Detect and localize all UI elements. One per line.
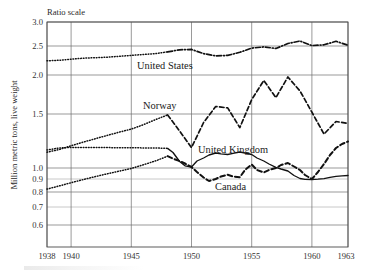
series-united-states: [47, 41, 348, 61]
ytick-1.5: 1.5: [32, 109, 43, 119]
ytick-2.0: 2.0: [32, 70, 43, 80]
x-axis-tick-labels: 1938 1940 1945 1950 1955 1960 1963: [38, 251, 354, 261]
series-label-norway: Norway: [143, 100, 177, 111]
series-canada-early-segment: [47, 156, 168, 189]
series-united-states-late-segment: [168, 41, 348, 56]
ytick-1.0: 1.0: [32, 163, 43, 173]
xtick-1938: 1938: [38, 251, 55, 261]
xtick-1950: 1950: [183, 251, 200, 261]
series-label-united-kingdom: United Kingdom: [198, 144, 268, 155]
xtick-1955: 1955: [243, 251, 260, 261]
series-norway-early-segment: [47, 115, 168, 152]
xtick-1963: 1963: [337, 251, 354, 261]
ratio-scale-note: Ratio scale: [47, 7, 85, 17]
ytick-0.9: 0.9: [32, 174, 43, 184]
figure-container: 3.0 2.5 2.0 1.5 1.0 0.9 0.8 0.7 0.6 1938…: [0, 0, 367, 272]
xtick-1945: 1945: [123, 251, 140, 261]
y-axis-tick-labels: 3.0 2.5 2.0 1.5 1.0 0.9 0.8 0.7 0.6: [32, 17, 43, 230]
series-label-canada: Canada: [215, 181, 247, 192]
series-united-kingdom-early-segment: [47, 147, 168, 150]
xtick-1940: 1940: [63, 251, 80, 261]
y-axis-title: Million metric tons, live weight: [9, 80, 19, 190]
series-norway: [47, 77, 348, 152]
series-norway-late-segment: [168, 77, 348, 148]
xtick-1960: 1960: [303, 251, 320, 261]
fishery-landings-line-chart: 3.0 2.5 2.0 1.5 1.0 0.9 0.8 0.7 0.6 1938…: [0, 0, 367, 272]
ytick-0.7: 0.7: [32, 202, 43, 212]
ytick-0.8: 0.8: [32, 187, 43, 197]
ytick-2.5: 2.5: [32, 41, 43, 51]
caption-artifact: [24, 266, 144, 270]
series-label-united-states: United States: [137, 60, 193, 71]
ytick-3.0: 3.0: [32, 17, 43, 27]
ytick-0.6: 0.6: [32, 220, 43, 230]
